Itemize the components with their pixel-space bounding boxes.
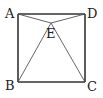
segment-DE — [51, 14, 85, 23]
label-E: E — [46, 26, 56, 41]
square-diagram: A D B C E — [0, 0, 103, 98]
label-B: B — [5, 78, 15, 93]
segment-CE — [51, 23, 85, 82]
label-A: A — [4, 6, 15, 21]
label-C: C — [87, 79, 97, 94]
segment-AE — [18, 14, 51, 23]
label-D: D — [87, 6, 97, 21]
